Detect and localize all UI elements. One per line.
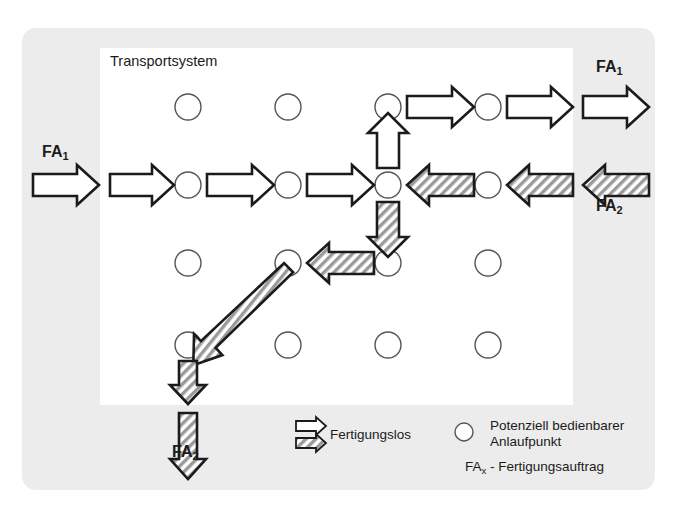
page-title: Transportsystem — [110, 53, 217, 70]
arrow-fa2-down[interactable] — [368, 202, 408, 257]
label-fa1-left: FA1 — [42, 143, 69, 161]
node-r4c4[interactable] — [475, 332, 501, 358]
arrow-fa1-seg1[interactable] — [110, 165, 174, 205]
label-fa1-right-text: FA — [596, 58, 616, 75]
node-r3c4[interactable] — [475, 250, 501, 276]
label-fa1-left-text: FA — [42, 143, 62, 160]
legend-white-arrow-icon — [296, 417, 326, 435]
node-r1c4[interactable] — [475, 94, 501, 120]
label-fa1-right-sub: 1 — [616, 65, 622, 77]
arrow-fa1-seg4[interactable] — [407, 87, 474, 127]
legend-anlaufpunkt-line1: Potenziell bedienbarer — [490, 418, 624, 433]
legend-anlaufpunkt-line2: Anlaufpunkt — [490, 434, 561, 449]
arrow-fa1-entry[interactable] — [33, 165, 99, 205]
arrow-fa2-seg2[interactable] — [407, 165, 474, 205]
arrow-fa1-up[interactable] — [368, 113, 408, 168]
legend-fax-suffix: - Fertigungsauftrag — [486, 459, 604, 474]
arrow-fa2-seg4[interactable] — [170, 361, 206, 404]
label-fa2-bottom-text: FA — [172, 443, 192, 460]
arrow-fa2-seg3[interactable] — [307, 243, 374, 283]
arrow-fa1-exit[interactable] — [583, 87, 649, 127]
node-r1c1[interactable] — [175, 94, 201, 120]
node-r4c3[interactable] — [375, 332, 401, 358]
label-fa1-left-sub: 1 — [62, 150, 68, 162]
label-fa2-bottom: FA2 — [172, 443, 199, 461]
node-r1c2[interactable] — [275, 94, 301, 120]
legend-node-icon — [455, 423, 473, 441]
node-r2c2[interactable] — [275, 172, 301, 198]
legend-hatched-arrow-icon — [296, 434, 326, 452]
arrow-fa2-seg1[interactable] — [507, 165, 573, 205]
node-r2c3-hub[interactable] — [375, 172, 401, 198]
node-r3c1[interactable] — [175, 250, 201, 276]
diagram-figure: Transportsystem FA1 FA1 FA2 FA2 Fertigun… — [0, 0, 676, 515]
arrow-fa1-seg5[interactable] — [507, 87, 573, 127]
node-r4c2[interactable] — [275, 332, 301, 358]
arrow-fa1-seg3[interactable] — [307, 165, 374, 205]
label-fa1-right: FA1 — [596, 58, 623, 76]
label-fa2-right-text: FA — [596, 197, 616, 214]
label-fa2-bottom-sub: 2 — [192, 450, 198, 462]
legend-fax-prefix: FA — [465, 459, 482, 474]
label-fa2-right-sub: 2 — [616, 204, 622, 216]
arrow-fa1-seg2[interactable] — [207, 165, 274, 205]
node-r2c4[interactable] — [475, 172, 501, 198]
legend-label-fax: FAx - Fertigungsauftrag — [465, 459, 604, 475]
legend-label-anlaufpunkt: Potenziell bedienbarerAnlaufpunkt — [490, 418, 624, 449]
legend-fax-sub: x — [482, 465, 487, 476]
label-fa2-right: FA2 — [596, 197, 623, 215]
legend-label-fertigungslos: Fertigungslos — [330, 427, 411, 443]
node-r2c1[interactable] — [175, 172, 201, 198]
